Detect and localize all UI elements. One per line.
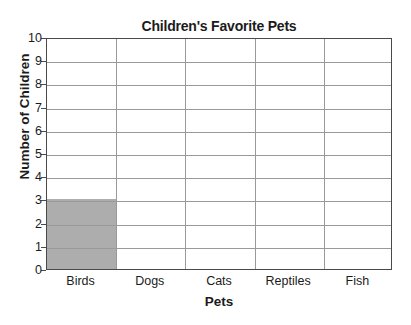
y-axis-tick-label: 9: [16, 55, 42, 67]
x-axis-tick-labels: BirdsDogsCatsReptilesFish: [46, 274, 392, 292]
x-axis-title: Pets: [46, 294, 392, 309]
gridline-vertical: [116, 39, 117, 269]
x-axis-tick-label: Dogs: [115, 274, 184, 289]
y-axis-tick-label: 5: [16, 148, 42, 160]
gridline-vertical: [324, 39, 325, 269]
bar-chart-figure: Children's Favorite Pets Number of Child…: [0, 0, 411, 325]
gridline-horizontal: [47, 225, 391, 226]
x-axis-tick-label: Fish: [323, 274, 392, 289]
y-axis-tick-label: 0: [16, 264, 42, 276]
y-axis-tick-label: 8: [16, 78, 42, 90]
x-axis-tick-label: Cats: [184, 274, 253, 289]
y-axis-tick-label: 1: [16, 241, 42, 253]
y-axis-tick-label: 2: [16, 218, 42, 230]
gridline-horizontal: [47, 248, 391, 249]
gridline-horizontal: [47, 155, 391, 156]
x-axis-tick-label: Reptiles: [254, 274, 323, 289]
y-axis-tick-labels: 012345678910: [12, 38, 42, 270]
y-axis-tick-label: 10: [16, 32, 42, 44]
gridline-horizontal: [47, 109, 391, 110]
gridline-vertical: [185, 39, 186, 269]
plot-inner: [47, 39, 391, 269]
y-axis-tick-label: 4: [16, 171, 42, 183]
gridline-horizontal: [47, 85, 391, 86]
plot-area: [46, 38, 392, 270]
gridline-horizontal: [47, 178, 391, 179]
y-axis-tick-label: 3: [16, 194, 42, 206]
chart-title: Children's Favorite Pets: [46, 18, 392, 34]
x-axis-tick-label: Birds: [46, 274, 115, 289]
gridline-horizontal: [47, 201, 391, 202]
y-axis-tick-label: 6: [16, 125, 42, 137]
gridline-horizontal: [47, 62, 391, 63]
gridline-horizontal: [47, 132, 391, 133]
gridline-vertical: [255, 39, 256, 269]
y-axis-tick-label: 7: [16, 102, 42, 114]
bar-birds: [47, 199, 116, 269]
